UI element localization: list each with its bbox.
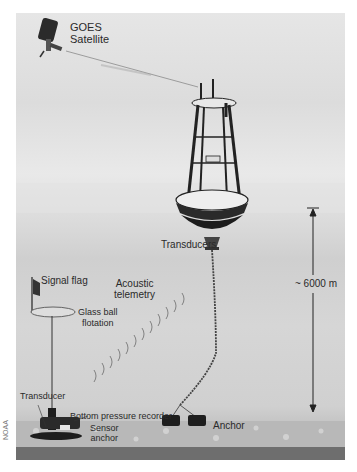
depth-arrow: [307, 208, 319, 412]
label-sensor-anchor: Sensor anchor: [90, 423, 119, 443]
label-glass-ball: Glass ball flotation: [78, 307, 118, 329]
label-acoustic-telemetry: Acoustic telemetry: [114, 278, 155, 300]
buoy-icon: [188, 79, 240, 201]
label-bottom-pressure-recorder: Bottom pressure recorder: [70, 411, 172, 422]
diagram-graphics: [16, 13, 345, 460]
label-transducer: Transducer: [20, 391, 65, 402]
label-signal-flag: Signal flag: [41, 275, 88, 286]
credit-noaa: NOAA: [2, 420, 9, 440]
label-depth: ~ 6000 m: [295, 278, 337, 289]
label-transducers: Transducers: [161, 239, 216, 250]
tsunami-buoy-diagram: GOES Satellite Transducers Signal flag A…: [16, 13, 345, 460]
label-anchor: Anchor: [213, 420, 245, 431]
label-satellite: GOES Satellite: [70, 21, 109, 45]
satellite-icon: [37, 17, 62, 57]
